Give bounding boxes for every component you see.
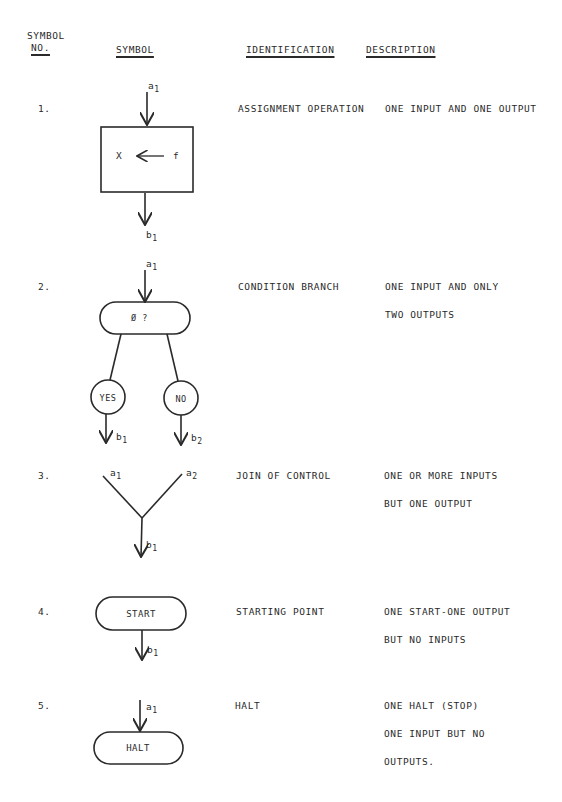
- assignment-source: f: [173, 150, 179, 161]
- halt-symbol: [94, 700, 183, 764]
- input-label: a1: [146, 701, 158, 715]
- output1-label: b1: [116, 431, 128, 445]
- yes-branch-line: [110, 334, 121, 380]
- join-input1-line: [103, 476, 142, 518]
- start-text: START: [126, 609, 156, 619]
- input-label: a1: [148, 80, 160, 94]
- input2-label: a2: [186, 467, 198, 481]
- symbols-diagram: a1 X f b1 a1 Ø ? YES NO b1 b2 a1 a2 b1 S…: [0, 0, 562, 802]
- start-symbol: [96, 597, 186, 660]
- halt-text: HALT: [126, 743, 150, 753]
- input-label: a1: [146, 258, 158, 272]
- output-label: b1: [146, 539, 158, 553]
- input1-label: a1: [110, 467, 122, 481]
- join-symbol: [103, 474, 182, 557]
- no-label: NO: [175, 394, 186, 404]
- output-label: b1: [147, 644, 159, 658]
- output2-label: b2: [191, 432, 203, 446]
- assignment-target: X: [116, 150, 122, 161]
- output-arrow-icon: [141, 518, 142, 557]
- no-branch-line: [167, 334, 178, 381]
- yes-label: YES: [100, 393, 117, 403]
- condition-text: Ø ?: [131, 313, 148, 323]
- output-label: b1: [146, 229, 158, 243]
- condition-branch-symbol: [91, 270, 198, 445]
- join-input2-line: [142, 474, 182, 518]
